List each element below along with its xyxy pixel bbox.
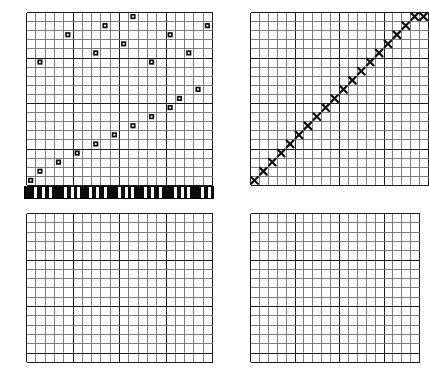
marker-square-dot — [149, 114, 154, 119]
marker-x-cross — [340, 86, 347, 93]
marker-highlight — [179, 98, 181, 100]
marker-x-cross — [411, 13, 418, 20]
barcode-bar — [154, 187, 159, 198]
marker-square-dot — [121, 41, 126, 46]
marker-highlight — [104, 25, 106, 27]
top-left-grid — [26, 12, 214, 187]
marker-square-dot — [93, 141, 98, 146]
barcode-bar — [177, 187, 181, 198]
barcode-bar — [134, 187, 144, 198]
marker-square-dot — [130, 14, 135, 19]
barcode-bar — [45, 187, 49, 198]
marker-x-cross — [358, 68, 365, 75]
marker-square-dot — [93, 50, 98, 55]
marker-highlight — [123, 43, 125, 45]
panel-bottom-right — [250, 213, 419, 362]
marker-x-cross — [287, 141, 294, 148]
marker-square-dot — [130, 123, 135, 128]
marker-square-dot — [37, 169, 42, 174]
marker-square-dot — [56, 160, 61, 165]
barcode-bar — [74, 187, 77, 198]
marker-highlight — [95, 143, 97, 145]
marker-x-cross — [393, 31, 400, 38]
marker-highlight — [39, 170, 41, 172]
barcode-bar — [92, 187, 96, 198]
barcode-bar — [147, 187, 151, 198]
marker-square-dot — [186, 50, 191, 55]
barcode-bar — [184, 187, 187, 198]
marker-highlight — [113, 134, 115, 136]
marker-highlight — [151, 116, 153, 118]
barcode-bar — [80, 187, 89, 198]
marker-square-dot — [37, 59, 42, 64]
barcode-bar — [25, 187, 34, 198]
figure-root — [0, 0, 429, 369]
marker-square-dot — [205, 23, 210, 28]
marker-square-dot — [28, 178, 33, 183]
barcode-bar — [67, 187, 71, 198]
barcode-bar — [99, 187, 104, 198]
marker-square-dot — [195, 87, 200, 92]
barcode-bar — [37, 187, 42, 198]
marker-x-cross — [331, 95, 338, 102]
marker-square-dot — [112, 132, 117, 137]
top-right-grid — [250, 12, 429, 187]
marker-highlight — [58, 161, 60, 163]
marker-x-cross — [376, 50, 383, 57]
barcode-strip — [24, 186, 214, 199]
marker-x-cross — [313, 113, 320, 120]
panel-top-left — [26, 12, 212, 185]
marker-highlight — [188, 52, 190, 54]
panel-bottom-left — [26, 213, 212, 362]
marker-x-cross — [322, 104, 329, 111]
marker-highlight — [95, 52, 97, 54]
marker-x-cross — [269, 159, 276, 166]
marker-highlight — [30, 179, 32, 181]
marker-highlight — [132, 16, 134, 18]
marker-highlight — [67, 34, 69, 36]
marker-square-dot — [177, 96, 182, 101]
marker-x-cross — [278, 150, 285, 157]
bottom-right-grid — [250, 213, 421, 364]
marker-square-dot — [168, 32, 173, 37]
marker-highlight — [76, 152, 78, 154]
marker-highlight — [39, 61, 41, 63]
marker-highlight — [169, 107, 171, 109]
marker-x-cross — [402, 22, 409, 29]
barcode-bar — [52, 187, 64, 198]
bottom-left-grid — [26, 213, 214, 364]
barcode-bar — [190, 187, 201, 198]
barcode-bar — [162, 187, 174, 198]
barcode-bar — [211, 187, 214, 198]
marker-square-dot — [102, 23, 107, 28]
marker-square-dot — [168, 105, 173, 110]
barcode-bar — [128, 187, 131, 198]
barcode-bar — [204, 187, 208, 198]
marker-x-cross — [251, 177, 258, 184]
marker-highlight — [197, 88, 199, 90]
marker-x-cross — [367, 59, 374, 66]
marker-x-cross — [296, 131, 303, 138]
marker-x-cross — [304, 122, 311, 129]
marker-square-dot — [149, 59, 154, 64]
marker-x-cross — [260, 168, 267, 175]
marker-square-dot — [75, 150, 80, 155]
marker-square-dot — [65, 32, 70, 37]
marker-x-cross — [349, 77, 356, 84]
marker-x-cross — [420, 13, 427, 20]
marker-highlight — [169, 34, 171, 36]
barcode-bar — [107, 187, 118, 198]
marker-highlight — [132, 125, 134, 127]
marker-highlight — [151, 61, 153, 63]
marker-x-cross — [385, 40, 392, 47]
barcode-bar — [121, 187, 125, 198]
marker-highlight — [206, 25, 208, 27]
panel-top-right — [250, 12, 428, 185]
